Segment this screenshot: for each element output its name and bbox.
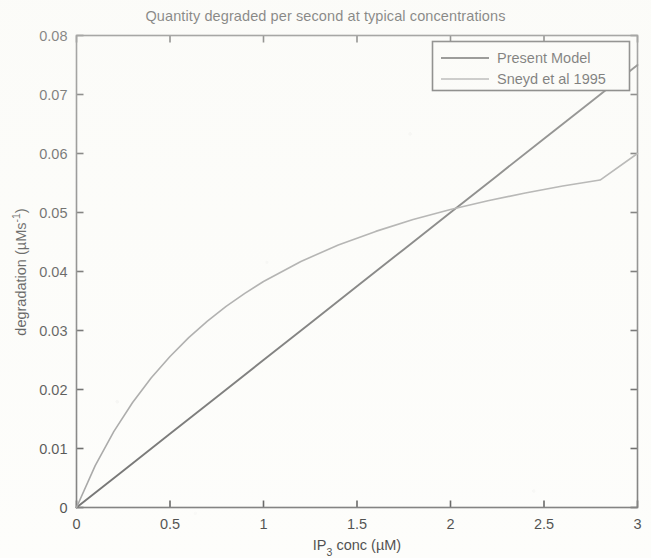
y-tick-label: 0.07: [39, 87, 67, 103]
figure-container: Quantity degraded per second at typical …: [0, 0, 651, 558]
x-tick-label: 2.5: [534, 516, 554, 532]
y-axis-title-superscript: -1: [10, 213, 22, 222]
svg-text:IP3 conc (µM): IP3 conc (µM): [313, 537, 401, 558]
x-axis-title: IP3 conc (µM): [313, 537, 401, 558]
legend-label-sneyd-1995: Sneyd et al 1995: [497, 71, 606, 87]
y-axis-title-rest: ): [13, 208, 29, 213]
y-tick-label: 0.08: [39, 28, 67, 44]
x-tick-label: 1.5: [347, 516, 367, 532]
axis-tick-marks: [77, 36, 638, 508]
data-series-group: [77, 65, 638, 508]
x-axis-title-rest: conc (µM): [332, 537, 401, 553]
plot-area: 00.010.020.030.040.050.060.070.08 00.511…: [0, 0, 651, 558]
y-tick-label: 0.02: [39, 382, 67, 398]
y-tick-label: 0.01: [39, 441, 67, 457]
y-tick-label: 0: [59, 500, 67, 516]
y-tick-label: 0.03: [39, 323, 67, 339]
svg-text:degradation (µMs-1): degradation (µMs-1): [10, 208, 29, 335]
legend-label-present-model: Present Model: [497, 50, 591, 66]
y-tick-labels: 00.010.020.030.040.050.060.070.08: [39, 28, 67, 516]
x-axis-title-base: IP: [313, 537, 327, 553]
y-axis-title-base: degradation (µMs: [13, 223, 29, 336]
y-tick-label: 0.06: [39, 146, 67, 162]
x-tick-label: 3: [633, 516, 641, 532]
x-tick-label: 2: [446, 516, 454, 532]
series-line-sneyd-et-al-1995: [77, 154, 638, 508]
x-tick-label: 0.5: [160, 516, 180, 532]
legend: Present Model Sneyd et al 1995: [433, 42, 630, 91]
x-tick-label: 1: [259, 516, 267, 532]
series-line-present-model: [77, 65, 638, 508]
y-tick-label: 0.05: [39, 205, 67, 221]
x-tick-labels: 00.511.522.53: [72, 516, 641, 532]
x-tick-label: 0: [72, 516, 80, 532]
plot-frame: [77, 36, 638, 508]
y-axis-title: degradation (µMs-1): [10, 208, 29, 335]
y-tick-label: 0.04: [39, 264, 67, 280]
